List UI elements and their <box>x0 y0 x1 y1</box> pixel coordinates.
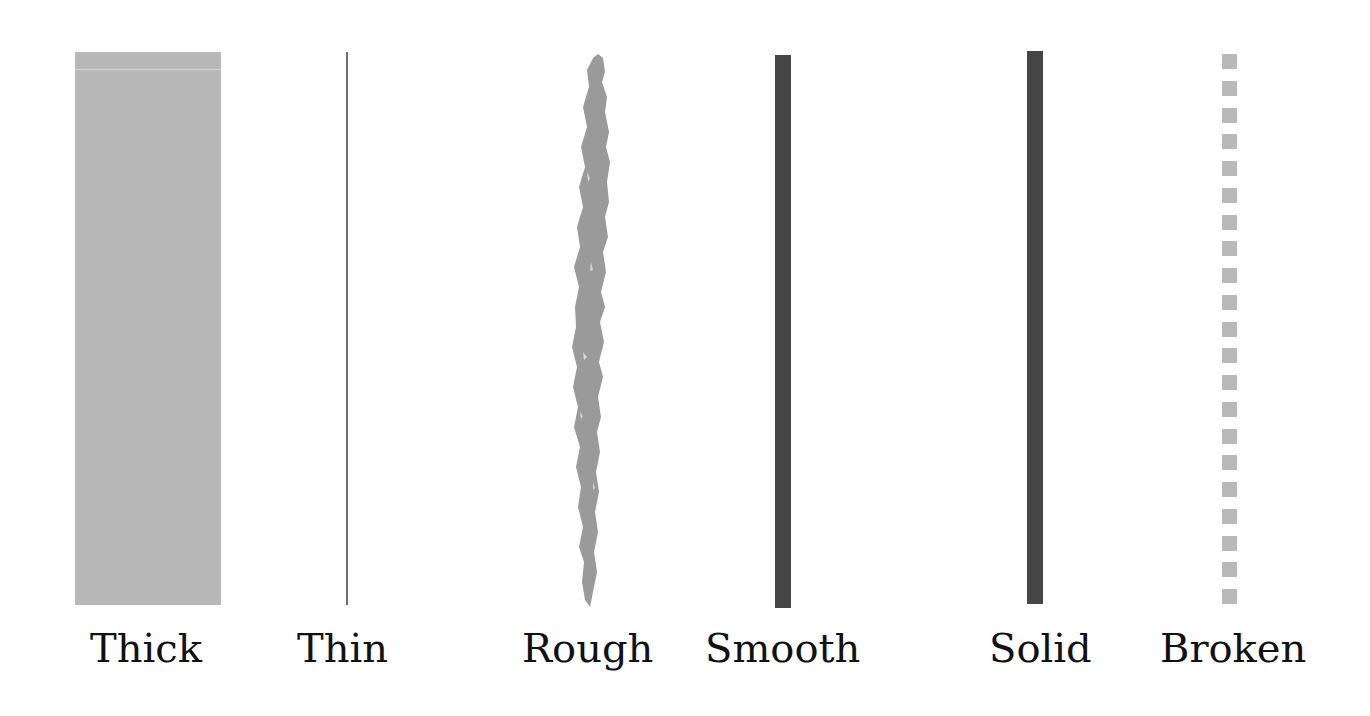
dash-segment <box>1222 108 1237 123</box>
dash-segment <box>1222 375 1237 390</box>
solid-line-sample <box>1027 51 1043 604</box>
dash-segment <box>1222 81 1237 96</box>
thin-line-sample <box>346 52 348 605</box>
label-smooth: Smooth <box>705 628 860 668</box>
dash-segment <box>1222 536 1237 551</box>
dash-segment <box>1222 161 1237 176</box>
dash-segment <box>1222 134 1237 149</box>
dash-segment <box>1222 348 1237 363</box>
dash-segment <box>1222 215 1237 230</box>
dash-segment <box>1222 295 1237 310</box>
dash-segment <box>1222 268 1237 283</box>
dash-segment <box>1222 562 1237 577</box>
dash-segment <box>1222 402 1237 417</box>
label-rough: Rough <box>522 628 653 668</box>
dash-segment <box>1222 54 1237 69</box>
dash-segment <box>1222 188 1237 203</box>
dash-segment <box>1222 241 1237 256</box>
dash-segment <box>1222 482 1237 497</box>
dash-segment <box>1222 509 1237 524</box>
dash-segment <box>1222 322 1237 337</box>
broken-line-sample <box>1222 54 1237 604</box>
dash-segment <box>1222 429 1237 444</box>
label-thick: Thick <box>90 628 202 668</box>
rough-line-sample <box>565 52 615 612</box>
smooth-line-sample <box>775 55 791 608</box>
label-thin: Thin <box>297 628 388 668</box>
label-broken: Broken <box>1160 628 1306 668</box>
thick-line-sample <box>75 52 221 605</box>
dash-segment <box>1222 455 1237 470</box>
dash-segment <box>1222 589 1237 604</box>
label-solid: Solid <box>989 628 1092 668</box>
